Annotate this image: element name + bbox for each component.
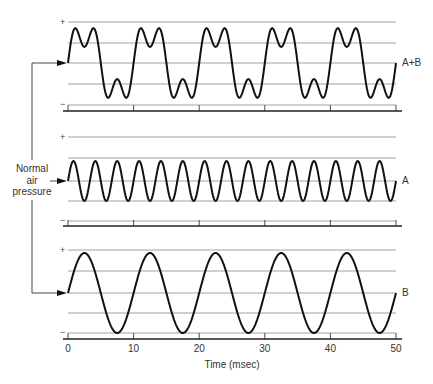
x-tick-40: 40	[325, 343, 337, 354]
axes	[63, 105, 402, 339]
side-label-line1: Normal	[16, 163, 48, 174]
plus-sign-b: +	[60, 245, 65, 255]
x-tick-20: 20	[194, 343, 206, 354]
minus-sign-b: −	[60, 327, 65, 337]
x-axis-label: Time (msec)	[204, 359, 259, 370]
side-label-line2: air	[26, 175, 38, 186]
label-a-plus-b: A+B	[402, 57, 422, 68]
x-tick-50: 50	[390, 343, 402, 354]
label-b: B	[402, 287, 409, 298]
x-tick-0: 0	[65, 343, 71, 354]
side-label-line3: pressure	[13, 186, 52, 197]
arrow-icon	[57, 60, 67, 296]
plus-sign-a: +	[60, 132, 65, 142]
x-tick-10: 10	[128, 343, 140, 354]
minus-sign-sum: −	[60, 99, 65, 109]
label-a: A	[402, 175, 409, 186]
waveform-figure: + − + − + − Normal air pressure A+B A B …	[0, 0, 433, 384]
x-tick-30: 30	[259, 343, 271, 354]
minus-sign-a: −	[60, 215, 65, 225]
plus-sign-sum: +	[60, 17, 65, 27]
